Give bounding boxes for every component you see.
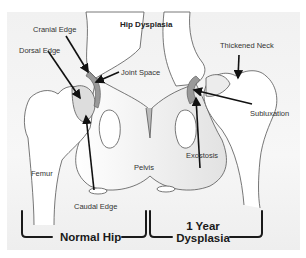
label-pelvis: Pelvis xyxy=(134,164,154,172)
diagram-title: Hip Dysplasia xyxy=(120,20,172,29)
arrow-thickened-neck xyxy=(238,55,239,78)
section-label-1-year: 1 Year xyxy=(176,220,230,232)
label-femur: Femur xyxy=(31,170,53,178)
label-exostosis: Exostosis xyxy=(186,152,218,160)
label-joint-space: Joint Space xyxy=(121,69,160,77)
section-label-normal-hip: Normal Hip xyxy=(60,231,121,243)
label-subluxation: Subluxation xyxy=(250,110,289,118)
arrow-cranial-edge xyxy=(66,36,88,72)
label-caudal-edge: Caudal Edge xyxy=(74,203,117,211)
label-cranial-edge: Cranial Edge xyxy=(33,26,76,34)
hip-dysplasia-diagram: Hip Dysplasia Cranial Edge Dorsal Edge J… xyxy=(0,0,306,258)
anatomy-illustration xyxy=(0,0,306,258)
label-dorsal-edge: Dorsal Edge xyxy=(19,47,60,55)
label-thickened-neck: Thickened Neck xyxy=(220,42,274,50)
section-label-dysplasia: Dysplasia xyxy=(174,232,232,244)
